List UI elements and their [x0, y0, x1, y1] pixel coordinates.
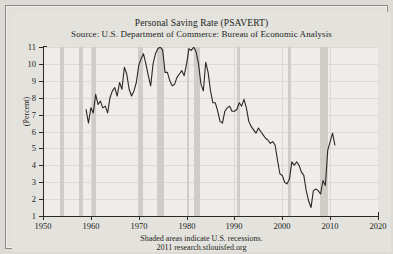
- x-axis-tick-label: 2000: [262, 221, 302, 231]
- x-axis-tick-label: 1950: [23, 221, 63, 231]
- x-axis-tick: [43, 216, 44, 220]
- figure-canvas: Personal Saving Rate (PSAVERT) Source: U…: [12, 12, 391, 252]
- x-axis-tick: [187, 216, 188, 220]
- x-axis-tick-label: 1980: [167, 221, 207, 231]
- x-axis-tick: [282, 216, 283, 220]
- y-axis-tick-label: 2: [14, 195, 36, 204]
- x-axis-tick: [234, 216, 235, 220]
- y-axis-tick: [39, 47, 43, 48]
- x-axis-tick-label: 2020: [358, 221, 393, 231]
- y-axis-tick-label: 1: [14, 212, 36, 221]
- y-axis-tick: [39, 64, 43, 65]
- y-axis-tick: [39, 165, 43, 166]
- footnote-source: 2011 research.stlouisfed.org: [12, 243, 391, 253]
- y-axis-tick: [39, 199, 43, 200]
- figure-frame: Personal Saving Rate (PSAVERT) Source: U…: [0, 0, 393, 254]
- y-axis-top-tick: [43, 46, 47, 47]
- y-axis-tick-label: 5: [14, 144, 36, 153]
- x-axis-tick-label: 1990: [214, 221, 254, 231]
- plot-area: [43, 47, 378, 216]
- chart-title: Personal Saving Rate (PSAVERT): [12, 18, 391, 29]
- y-axis-line: [43, 46, 44, 217]
- y-axis-tick-label: 11: [14, 43, 36, 52]
- y-axis-title: (Percent): [22, 82, 31, 142]
- y-axis-tick: [39, 182, 43, 183]
- x-axis-tick: [330, 216, 331, 220]
- y-axis-tick: [39, 115, 43, 116]
- y-axis-tick: [39, 148, 43, 149]
- x-axis-tick: [139, 216, 140, 220]
- y-axis-tick-label: 3: [14, 178, 36, 187]
- y-axis-tick-label: 10: [14, 60, 36, 69]
- y-axis-tick: [39, 132, 43, 133]
- y-axis-tick-label: 4: [14, 161, 36, 170]
- x-axis-tick-label: 1960: [71, 221, 111, 231]
- y-axis-tick: [39, 81, 43, 82]
- x-axis-tick: [91, 216, 92, 220]
- figure-border: Personal Saving Rate (PSAVERT) Source: U…: [5, 5, 388, 249]
- data-series-line: [43, 47, 378, 216]
- x-axis-tick-label: 2010: [310, 221, 350, 231]
- x-axis-line: [43, 216, 379, 217]
- x-axis-tick: [378, 216, 379, 220]
- y-axis-tick: [39, 98, 43, 99]
- x-axis-tick-label: 1970: [119, 221, 159, 231]
- chart-subtitle: Source: U.S. Department of Commerce: Bur…: [12, 29, 391, 40]
